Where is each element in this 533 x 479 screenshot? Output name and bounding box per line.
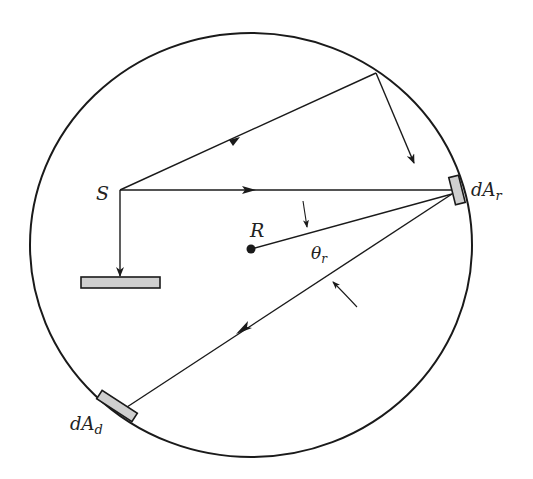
angle-symbol: θ bbox=[311, 243, 321, 263]
ray-source-to-reflector bbox=[120, 186, 452, 194]
angle-indicator-arrow-upper bbox=[303, 201, 307, 227]
detector-element-main: dA bbox=[70, 413, 95, 434]
normal-line bbox=[251, 194, 452, 249]
source-label: S bbox=[96, 182, 109, 204]
center-label: R bbox=[249, 219, 264, 241]
reflecting-element-patch bbox=[449, 175, 465, 205]
angle-label: θr bbox=[311, 243, 328, 266]
reflected-ray bbox=[376, 73, 414, 163]
baffle bbox=[81, 277, 160, 288]
integrating-sphere-diagram: S R θr dAr dAd bbox=[0, 0, 533, 479]
angle-subscript: r bbox=[321, 252, 328, 266]
detector-element-patch bbox=[97, 390, 138, 421]
reflecting-element-main: dA bbox=[471, 179, 496, 200]
detector-element-label: dAd bbox=[70, 413, 103, 437]
detector-element-sub: d bbox=[95, 422, 103, 437]
ray-source-to-wall bbox=[120, 73, 376, 190]
reflecting-element-sub: r bbox=[496, 188, 503, 203]
ray-reflector-to-detector bbox=[124, 194, 452, 409]
angle-indicator-arrow-lower bbox=[333, 282, 357, 307]
reflecting-element-label: dAr bbox=[471, 179, 503, 203]
